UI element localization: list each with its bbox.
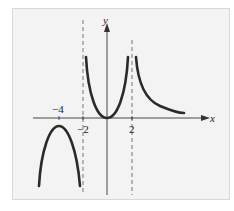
y-axis-label: y xyxy=(102,14,108,26)
function-graph: y x −4 −2 2 xyxy=(0,0,234,211)
x-axis-arrow-icon xyxy=(201,115,210,121)
curve-left-branch xyxy=(39,126,80,186)
tick-label-2: 2 xyxy=(129,123,135,135)
tick-label-neg4: −4 xyxy=(52,103,64,115)
curve-right-branch xyxy=(136,57,184,113)
tick-label-neg2: −2 xyxy=(77,123,89,135)
x-axis-label: x xyxy=(209,112,215,124)
